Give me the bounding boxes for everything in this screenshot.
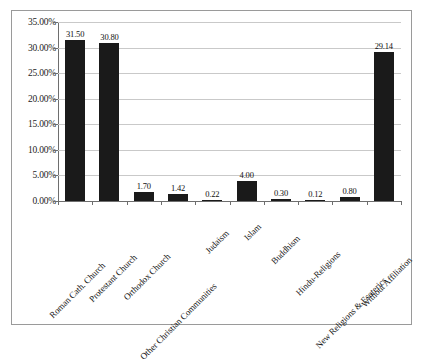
y-axis-tick-label: 30.00% — [12, 43, 56, 53]
bar-slot: 29.14 — [367, 22, 401, 201]
bar-value-label: 31.50 — [66, 29, 84, 39]
bar-slot: 4.00 — [230, 22, 264, 201]
bar-value-label: 0.80 — [342, 186, 356, 196]
bar-slot: 1.42 — [161, 22, 195, 201]
x-axis-category-label-text: Judaism — [204, 227, 233, 256]
x-axis-category-label: Hindu-Religions — [337, 205, 387, 255]
bar[interactable] — [271, 199, 291, 201]
bar[interactable] — [340, 197, 360, 201]
y-axis-tick-label: 0.00% — [12, 196, 56, 206]
y-axis-tick-labels: 0.00%5.00%10.00%15.00%20.00%25.00%30.00%… — [12, 11, 56, 324]
bar-value-label: 1.42 — [171, 183, 185, 193]
bar[interactable] — [168, 194, 188, 201]
bar-value-label: 0.30 — [274, 188, 288, 198]
bar[interactable] — [65, 40, 85, 201]
bar-slot: 1.70 — [127, 22, 161, 201]
bar[interactable] — [305, 200, 325, 201]
bar[interactable] — [99, 43, 119, 201]
bar-value-label: 1.70 — [137, 181, 151, 191]
y-axis-tick-label: 10.00% — [12, 145, 56, 155]
bar-slot: 0.22 — [195, 22, 229, 201]
bar[interactable] — [237, 181, 257, 201]
chart-figure: 0.00%5.00%10.00%15.00%20.00%25.00%30.00%… — [11, 10, 412, 325]
bar[interactable] — [134, 192, 154, 201]
x-axis-category-label-text: Buddhism — [269, 232, 303, 266]
bar-value-label: 0.12 — [308, 189, 322, 199]
y-axis-tick-label: 20.00% — [12, 94, 56, 104]
x-axis-category-labels: Roman Cath. ChurchProtestant ChurchOrtho… — [58, 205, 401, 315]
x-axis-category-label-text: Without Affiliation — [359, 254, 415, 310]
bar[interactable] — [202, 200, 222, 201]
plot-area: 31.5030.801.701.420.224.000.300.120.8029… — [58, 22, 401, 201]
bar[interactable] — [374, 52, 394, 201]
bar-value-label: 29.14 — [375, 41, 393, 51]
bar-slot: 0.12 — [298, 22, 332, 201]
bar-value-label: 30.80 — [100, 32, 118, 42]
y-axis-tick-label: 15.00% — [12, 119, 56, 129]
bar-slot: 0.80 — [332, 22, 366, 201]
bar-slot: 0.30 — [264, 22, 298, 201]
bar-value-label: 0.22 — [205, 189, 219, 199]
x-axis-category-label-text: Other Christian Communities — [138, 280, 220, 362]
bar-value-label: 4.00 — [240, 170, 254, 180]
y-axis-tick-label: 5.00% — [12, 170, 56, 180]
x-axis-tick-mark — [401, 201, 402, 205]
bar-slot: 31.50 — [58, 22, 92, 201]
y-axis-tick-label: 35.00% — [12, 17, 56, 27]
x-axis-category-label: Buddhism — [296, 205, 330, 239]
y-axis-tick-label: 25.00% — [12, 68, 56, 78]
x-axis-category-label-text: Hindu-Religions — [294, 248, 344, 298]
bar-slot: 30.80 — [92, 22, 126, 201]
